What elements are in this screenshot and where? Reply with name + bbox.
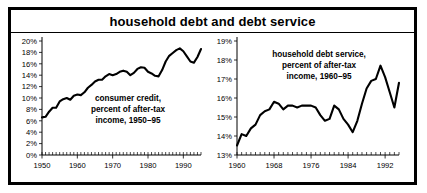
chart-panels: 0%2%4%6%8%10%12%14%16%18%20%195019601970…: [11, 33, 414, 183]
chart-title-bar: household debt and debt service: [11, 10, 414, 33]
x-tick-label: 1984: [340, 161, 357, 170]
chart-figure: household debt and debt service 0%2%4%6%…: [8, 7, 417, 185]
x-tick-label: 1968: [266, 161, 283, 170]
x-tick-label: 1976: [303, 161, 320, 170]
x-tick-label: 1992: [377, 161, 394, 170]
x-tick-label: 1980: [140, 161, 157, 170]
y-tick-label: 10%: [22, 94, 37, 103]
y-tick-label: 16%: [217, 94, 232, 103]
chart-annotation-line: income, 1960–95: [286, 72, 352, 81]
chart-annotation-line: percent of after-tax: [282, 61, 357, 70]
y-tick-label: 14%: [22, 71, 37, 80]
y-tick-label: 13%: [217, 151, 232, 160]
debt-service-line-chart: 13%14%15%16%17%18%19%1960196819761984199…: [207, 33, 414, 183]
chart-annotation-line: consumer credit,: [95, 94, 161, 103]
consumer-credit-line-chart: 0%2%4%6%8%10%12%14%16%18%20%195019601970…: [11, 33, 207, 183]
y-tick-label: 18%: [217, 56, 232, 65]
x-tick-label: 1960: [229, 161, 246, 170]
y-tick-label: 4%: [26, 128, 37, 137]
y-tick-label: 6%: [26, 117, 37, 126]
chart-annotation-line: income, 1950–95: [95, 116, 161, 125]
chart-annotation-line: household debt service,: [272, 50, 366, 59]
page-title: household debt and debt service: [109, 15, 315, 28]
chart-annotation-line: percent of after-tax: [91, 105, 166, 114]
chart-panel-consumer-credit: 0%2%4%6%8%10%12%14%16%18%20%195019601970…: [11, 33, 207, 183]
y-tick-label: 12%: [22, 82, 37, 91]
y-tick-label: 19%: [217, 37, 232, 46]
y-tick-label: 8%: [26, 105, 37, 114]
x-tick-label: 1990: [175, 161, 192, 170]
y-tick-label: 15%: [217, 113, 232, 122]
y-tick-label: 18%: [22, 48, 37, 57]
chart-panel-debt-service: 13%14%15%16%17%18%19%1960196819761984199…: [207, 33, 414, 183]
x-tick-label: 1960: [69, 161, 86, 170]
y-tick-label: 16%: [22, 60, 37, 69]
y-tick-label: 17%: [217, 75, 232, 84]
y-tick-label: 14%: [217, 132, 232, 141]
y-tick-label: 2%: [26, 139, 37, 148]
x-tick-label: 1950: [34, 161, 51, 170]
x-tick-label: 1970: [104, 161, 121, 170]
y-tick-label: 20%: [22, 37, 37, 46]
y-tick-label: 0%: [26, 151, 37, 160]
